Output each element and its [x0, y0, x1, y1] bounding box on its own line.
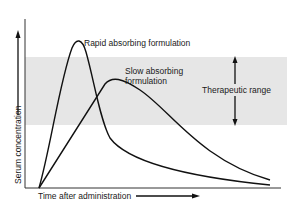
slow-label-2: formulation [125, 76, 167, 86]
slow-label-1: Slow absorbing [125, 66, 183, 76]
therapeutic-range-label: Therapeutic range [202, 85, 271, 95]
rapid-label: Rapid absorbing formulation [84, 38, 191, 48]
x-axis-label: Time after administration [38, 191, 131, 201]
y-axis-label: Serum concentration [13, 105, 23, 184]
x-arrow-icon [192, 194, 200, 199]
pk-chart: Serum concentration Time after administr… [0, 0, 295, 211]
y-arrow-icon [16, 30, 21, 38]
